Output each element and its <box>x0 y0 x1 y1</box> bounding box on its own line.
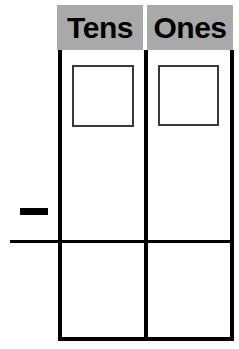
column-rule-left <box>58 50 62 341</box>
column-rule-right <box>230 50 234 341</box>
bottom-rule <box>58 337 234 341</box>
subtraction-rule <box>10 240 234 243</box>
digit-box-ones[interactable] <box>158 65 219 126</box>
column-header-ones: Ones <box>147 5 233 50</box>
minus-operator-icon: − <box>20 208 48 215</box>
column-rule-middle <box>144 50 148 341</box>
place-value-subtraction-worksheet: Tens Ones − <box>0 0 239 349</box>
column-header-tens: Tens <box>57 5 143 50</box>
digit-box-tens[interactable] <box>72 65 134 127</box>
